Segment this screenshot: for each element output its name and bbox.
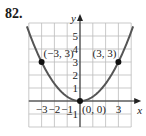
parabola-chart: xy (−3, 3)(0, 0)(3, 3) −3−2−13−112345 <box>0 0 146 136</box>
x-tick-label: 3 <box>116 103 122 115</box>
y-tick-label: 2 <box>73 69 79 81</box>
point-label: (0, 0) <box>82 103 106 116</box>
y-tick-label: 5 <box>73 30 79 42</box>
x-tick-label: −3 <box>36 103 48 115</box>
y-axis-arrow-icon <box>77 14 83 21</box>
point-label: (−3, 3) <box>44 47 74 60</box>
x-tick-label: −2 <box>49 103 61 115</box>
point-label: (3, 3) <box>93 47 117 60</box>
y-tick-label: 3 <box>73 56 79 68</box>
y-axis-label: y <box>70 12 76 24</box>
x-axis-label: x <box>136 104 142 116</box>
y-tick-label: 1 <box>73 82 79 94</box>
y-tick-label: −1 <box>66 108 78 120</box>
data-point <box>39 59 45 65</box>
y-tick-label: 4 <box>73 43 79 55</box>
data-point <box>115 59 121 65</box>
